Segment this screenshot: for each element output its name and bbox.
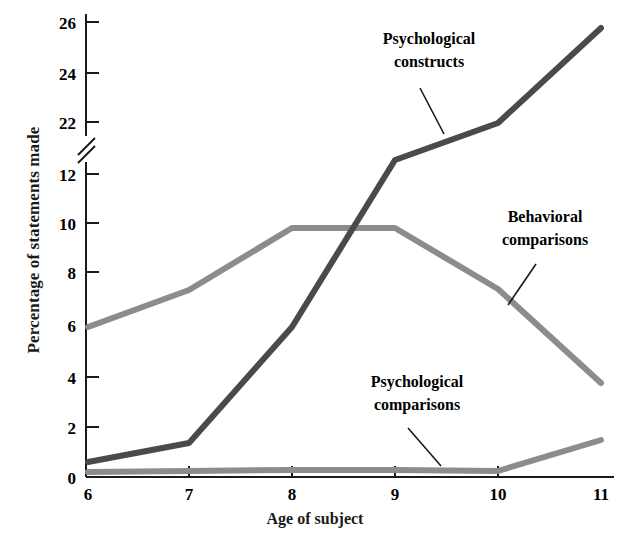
y-axis-break-icon <box>78 136 95 163</box>
annotation-leader-line <box>508 264 536 305</box>
y-axis-ticks <box>86 22 99 477</box>
x-tick-label: 10 <box>490 485 507 504</box>
y-tick-label: 10 <box>59 215 76 234</box>
x-tick-label: 11 <box>593 485 609 504</box>
annotation-line-1: Psychological <box>383 30 476 48</box>
y-tick-label: 6 <box>68 317 77 336</box>
annotation-line-2: constructs <box>394 53 464 70</box>
annotation-leader-line <box>408 428 441 466</box>
x-tick-label: 7 <box>185 485 194 504</box>
annotation-psychological-comparisons: Psychological comparisons <box>371 373 464 466</box>
y-tick-label: 0 <box>68 469 77 488</box>
y-tick-label: 22 <box>59 114 76 133</box>
y-tick-label: 4 <box>68 369 77 388</box>
y-tick-label: 2 <box>68 419 77 438</box>
y-tick-labels: 26 24 22 12 10 8 6 4 2 0 <box>59 14 77 488</box>
x-tick-labels: 6 7 8 9 10 11 <box>84 485 609 504</box>
y-tick-label: 8 <box>68 264 77 283</box>
x-tick-label: 8 <box>288 485 297 504</box>
annotation-line-2: comparisons <box>502 231 588 249</box>
annotation-line-1: Psychological <box>371 373 464 391</box>
x-tick-label: 9 <box>391 485 400 504</box>
x-tick-label: 6 <box>84 485 93 504</box>
annotation-line-1: Behavioral <box>508 208 583 225</box>
series-line-behavioral-comparisons <box>88 228 601 383</box>
annotation-psychological-constructs: Psychological constructs <box>383 30 476 134</box>
y-tick-label: 24 <box>59 65 77 84</box>
y-tick-label: 26 <box>59 14 76 33</box>
chart-figure: Percentage of statements made Age of sub… <box>0 0 630 543</box>
annotation-line-2: comparisons <box>374 396 460 414</box>
y-tick-label: 12 <box>59 166 76 185</box>
chart-canvas: 26 24 22 12 10 8 6 4 2 0 6 7 8 9 10 11 <box>0 0 630 543</box>
annotation-leader-line <box>420 88 444 134</box>
annotation-behavioral-comparisons: Behavioral comparisons <box>502 208 588 305</box>
